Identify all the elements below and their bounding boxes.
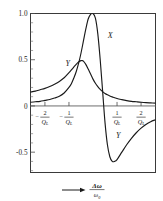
y-tick-label: 0	[24, 103, 28, 111]
x-tick-minus-sign: −	[60, 113, 64, 120]
x-tick-numerator: 2	[140, 109, 143, 116]
chart-canvas: 1.00.50-0.5−2QL−1QL1QL2QLXYYΔωω0	[0, 0, 163, 201]
chart-background	[0, 0, 163, 201]
y-tick-label: -0.5	[16, 149, 28, 157]
x-axis-caption-numerator: Δω	[91, 182, 101, 190]
x-tick-numerator: 1	[115, 109, 118, 116]
x-tick-minus-sign: −	[36, 113, 40, 120]
y-tick-label: 0.5	[19, 56, 28, 64]
x-tick-numerator: 2	[43, 109, 46, 116]
resonance-response-chart: 1.00.50-0.5−2QL−1QL1QL2QLXYYΔωω0	[0, 0, 163, 201]
y-tick-label: 1.0	[19, 10, 28, 18]
x-tick-numerator: 1	[67, 109, 70, 116]
